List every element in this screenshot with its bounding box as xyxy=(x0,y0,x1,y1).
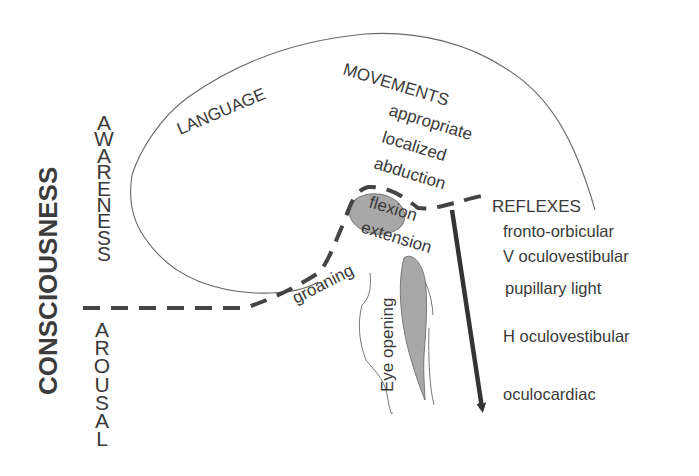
eye-opening-label: Eye opening xyxy=(378,297,397,392)
reflex-item: pupillary light xyxy=(505,279,602,297)
reflex-item: fronto-orbicular xyxy=(503,222,614,240)
rostro-caudal-arrow xyxy=(452,210,482,408)
reflexes-heading: REFLEXES xyxy=(492,197,581,216)
reflex-item: H oculovestibular xyxy=(503,327,630,345)
reflex-item: V oculovestibular xyxy=(503,247,629,265)
language-label: LANGUAGE xyxy=(174,84,268,138)
groaning-label: groaning xyxy=(289,261,357,308)
arousal-letters: AROUSAL xyxy=(94,318,110,450)
brainstem-shape xyxy=(400,256,426,400)
consciousness-diagram: CONSCIOUSNESS AWARENESS AROUSAL LANGUAGE… xyxy=(0,0,699,476)
reflex-item: oculocardiac xyxy=(503,385,596,403)
stacked-letter: L xyxy=(96,427,108,450)
consciousness-label: CONSCIOUSNESS xyxy=(33,167,63,395)
brainstem-outline-right-lower xyxy=(429,328,434,405)
stacked-letter: S xyxy=(97,242,111,265)
awareness-letters: AWARENESS xyxy=(94,111,114,265)
